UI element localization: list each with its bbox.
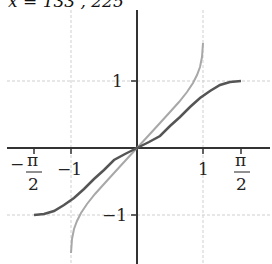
x-label-neg1: −1 [57,159,82,179]
x-label-pos1: 1 [198,159,209,179]
y-label-neg1: −1 [102,205,127,225]
chart-canvas: − π 2 −1 1 π 2 1 −1 [0,0,272,264]
x-label-neg-pi2-minus: − [10,154,24,174]
x-label-pi2-pi: π [235,150,246,170]
axes [7,10,270,264]
x-label-pi2-two: 2 [236,174,247,194]
x-label-neg-pi2-two: 2 [28,174,39,194]
y-label-pos1: 1 [112,71,123,91]
x-label-neg-pi2-pi: π [27,150,38,170]
grid [7,10,272,264]
